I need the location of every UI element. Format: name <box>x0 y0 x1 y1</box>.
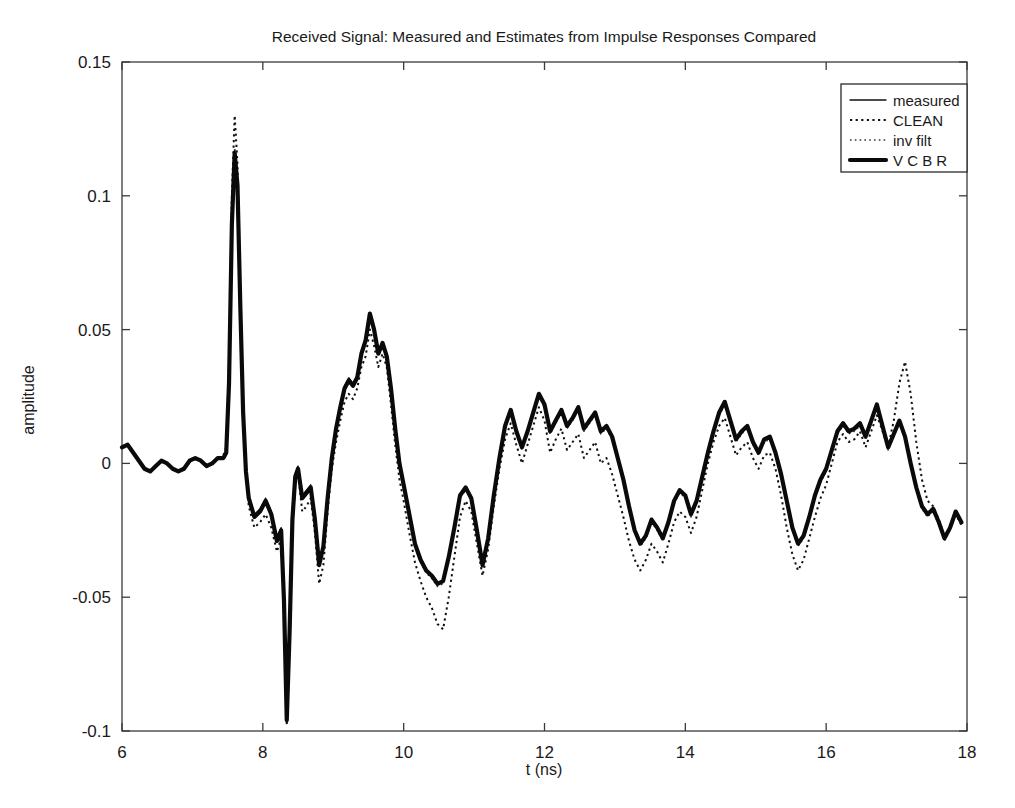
x-tick-label: 18 <box>958 743 977 762</box>
x-tick-label: 6 <box>117 743 126 762</box>
chart-legend: measuredCLEANinv filtV C B R <box>841 84 967 172</box>
y-axis-ticks <box>122 62 967 731</box>
x-tick-label: 12 <box>535 743 554 762</box>
axis-frame <box>122 62 967 731</box>
chart-canvas: Received Signal: Measured and Estimates … <box>0 0 1015 808</box>
x-axis-label: t (ns) <box>526 761 562 778</box>
y-tick-label: 0.15 <box>78 53 111 72</box>
series-line-clean <box>122 116 961 726</box>
series-line-v-c-b-r <box>122 153 961 720</box>
x-tick-label: 10 <box>394 743 413 762</box>
y-axis-tick-labels: -0.1-0.0500.050.10.15 <box>72 53 111 741</box>
figure-container: Received Signal: Measured and Estimates … <box>0 0 1015 808</box>
x-tick-label: 8 <box>258 743 267 762</box>
legend-label: inv filt <box>893 132 932 149</box>
y-tick-label: 0.1 <box>87 187 111 206</box>
y-axis-label: amplitude <box>20 365 37 434</box>
x-axis-ticks <box>122 62 967 731</box>
chart-title: Received Signal: Measured and Estimates … <box>272 28 816 45</box>
legend-label: V C B R <box>893 152 947 169</box>
y-tick-label: -0.05 <box>72 588 111 607</box>
x-tick-label: 16 <box>817 743 836 762</box>
legend-label: measured <box>893 92 960 109</box>
x-tick-label: 14 <box>676 743 695 762</box>
y-tick-label: 0 <box>102 454 111 473</box>
chart-title-group: Received Signal: Measured and Estimates … <box>272 28 816 45</box>
y-tick-label: -0.1 <box>82 722 111 741</box>
x-axis-tick-labels: 681012141618 <box>117 743 976 762</box>
data-series-layer <box>122 116 961 726</box>
y-tick-label: 0.05 <box>78 321 111 340</box>
plot-box <box>122 62 967 731</box>
legend-label: CLEAN <box>893 112 943 129</box>
